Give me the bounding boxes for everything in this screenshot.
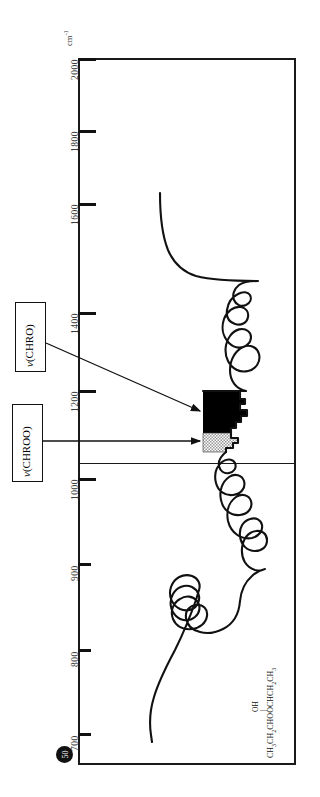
axis-tick — [78, 390, 96, 393]
axis-unit-label: cm-1 — [62, 30, 74, 46]
axis-tick-label: 1800 — [70, 131, 80, 152]
compound-formula: OH | CH3CH2CHOOCHCH2CH3 — [252, 668, 277, 758]
axis-tick — [78, 312, 96, 315]
nu-symbol-chro: ν — [23, 362, 35, 367]
axis-tick-label: 2000 — [70, 59, 80, 80]
annotation-label-chroo: ν(CHROO) — [20, 426, 32, 477]
annotation-text-chro: (CHRO) — [23, 324, 35, 362]
spectrum-plot-frame — [78, 58, 296, 765]
axis-tick-label: 1400 — [70, 313, 80, 334]
axis-tick — [78, 478, 96, 481]
axis-tick-label: 900 — [70, 565, 80, 581]
formula-main-chain: CH3CH2CHOOCHCH2CH3 — [266, 668, 275, 758]
axis-tick — [78, 203, 96, 206]
annotation-label-chro: ν(CHRO) — [23, 324, 35, 367]
axis-unit-exponent: -1 — [62, 30, 69, 35]
scale-change-divider — [78, 463, 296, 464]
axis-tick-label: 700 — [70, 735, 80, 751]
page-number-badge: 50 — [56, 746, 73, 763]
axis-tick-label: 1600 — [70, 204, 80, 225]
page-number-text: 50 — [60, 751, 69, 759]
axis-tick — [78, 58, 96, 61]
formula-substituent: OH — [252, 668, 261, 712]
axis-unit-text: cm — [64, 36, 74, 46]
annotation-text-chroo: (CHROO) — [20, 426, 32, 472]
axis-tick — [78, 130, 96, 133]
nu-symbol-chroo: ν — [20, 472, 32, 477]
axis-tick-label: 1000 — [70, 479, 80, 500]
axis-tick-label: 1200 — [70, 391, 80, 412]
axis-tick-label: 800 — [70, 651, 80, 667]
